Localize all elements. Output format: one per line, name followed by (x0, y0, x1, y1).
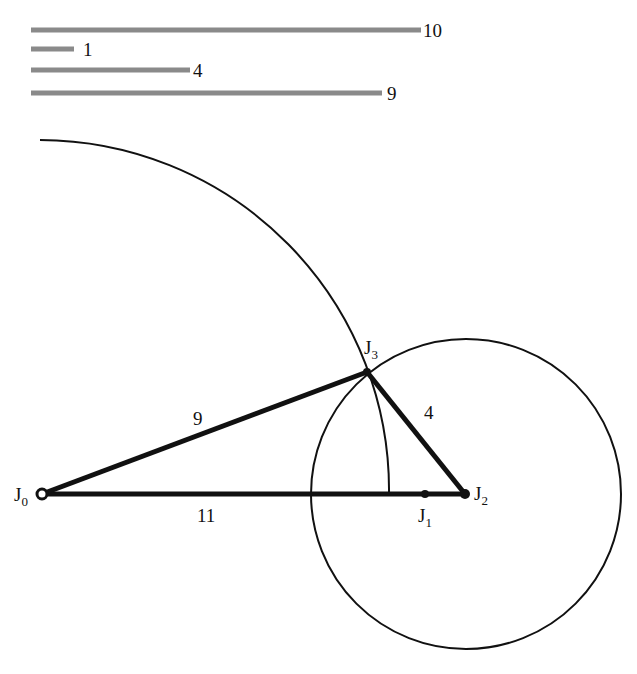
bar-10-label: 10 (423, 20, 442, 41)
linkage-diagram: 10 1 4 9 9 4 11 J0 J1 J2 J3 (0, 0, 637, 674)
joint-label-j2: J2 (474, 483, 488, 508)
link-label-4: 4 (424, 402, 434, 423)
link-j3-j2 (367, 372, 465, 494)
joint-j3 (363, 368, 371, 376)
arc-radius-9 (40, 140, 389, 494)
bar-1-label: 1 (83, 39, 93, 60)
joint-j0 (37, 489, 47, 499)
joint-j2 (460, 489, 470, 499)
bar-4-label: 4 (193, 60, 203, 81)
joint-j1 (421, 490, 429, 498)
joint-label-j1: J1 (418, 505, 432, 530)
link-label-9: 9 (193, 408, 203, 429)
link-j0-j3 (42, 372, 367, 494)
joint-label-j3: J3 (364, 337, 378, 362)
joint-label-j0: J0 (14, 484, 28, 509)
length-legend: 10 1 4 9 (31, 20, 442, 104)
link-label-11: 11 (197, 505, 215, 526)
bar-9-label: 9 (387, 83, 397, 104)
